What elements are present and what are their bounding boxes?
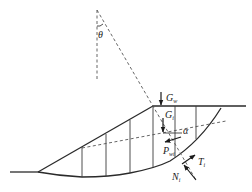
normal-force-arrow: [184, 165, 196, 180]
p-wi-label: Pwi: [162, 145, 175, 157]
slope-face: [38, 106, 153, 172]
seepage-force-arrow: [165, 137, 181, 142]
slip-surface-arc: [38, 108, 221, 177]
slope-slice-diagram: θ Gw Gi α Pwi Ti Ni: [0, 0, 252, 192]
theta-label: θ: [98, 29, 103, 40]
radius-line: [97, 10, 196, 180]
alpha-label: α: [183, 125, 189, 136]
g-w-label: Gw: [166, 92, 177, 104]
n-i-label: Ni: [171, 171, 181, 183]
theta-angle-arc: [97, 24, 103, 26]
g-i-label: Gi: [165, 109, 174, 121]
t-i-label: Ti: [198, 156, 206, 168]
